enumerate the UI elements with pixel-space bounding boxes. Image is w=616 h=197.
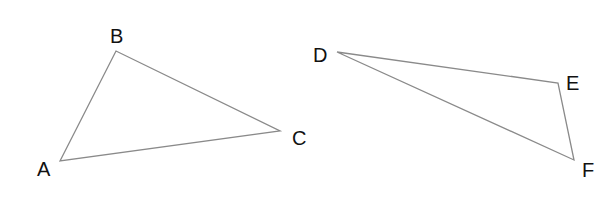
triangle-abc-outline: [60, 51, 280, 161]
vertex-label-c: C: [292, 127, 306, 149]
vertex-label-e: E: [566, 72, 579, 94]
vertex-label-d: D: [313, 44, 327, 66]
vertex-label-a: A: [37, 158, 51, 180]
vertex-label-b: B: [110, 25, 123, 47]
vertex-label-f: F: [582, 159, 594, 181]
triangle-def: D E F: [313, 44, 594, 181]
triangle-abc: A B C: [37, 25, 306, 180]
triangle-def-outline: [337, 52, 574, 160]
triangles-diagram: A B C D E F: [0, 0, 616, 197]
